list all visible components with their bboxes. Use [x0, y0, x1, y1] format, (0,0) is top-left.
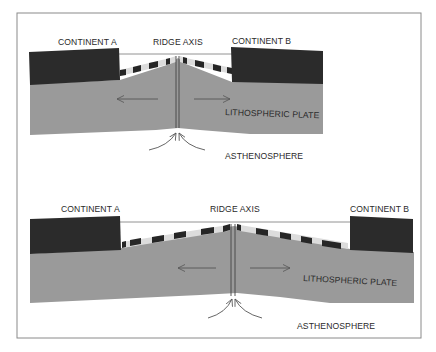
label-asthenosphere: ASTHENOSPHERE — [297, 321, 375, 331]
upwelling-arrow-left — [208, 299, 232, 318]
upwelling-arrow-left — [149, 133, 176, 150]
continent-a-block — [30, 216, 121, 254]
continent-a-block — [29, 48, 120, 85]
upwelling-arrow-right — [235, 299, 262, 318]
continent-b-block — [350, 216, 413, 253]
label-ridge-axis: RIDGE AXIS — [210, 204, 260, 214]
label-continent-b: CONTINENT B — [350, 204, 409, 214]
label-asthenosphere: ASTHENOSPHERE — [225, 151, 303, 161]
label-ridge-axis: RIDGE AXIS — [153, 37, 203, 47]
seafloor-spreading-diagram: CONTINENT A RIDGE AXIS CONTINENT B LITHO… — [0, 0, 436, 352]
panel-top: CONTINENT A RIDGE AXIS CONTINENT B LITHO… — [29, 36, 323, 161]
label-continent-b: CONTINENT B — [232, 36, 291, 46]
continent-b-block — [231, 47, 323, 84]
upwelling-arrow-right — [179, 133, 205, 150]
panel-bottom: CONTINENT A RIDGE AXIS CONTINENT B LITHO… — [30, 204, 414, 331]
label-continent-a: CONTINENT A — [61, 204, 120, 214]
label-continent-a: CONTINENT A — [58, 37, 117, 47]
